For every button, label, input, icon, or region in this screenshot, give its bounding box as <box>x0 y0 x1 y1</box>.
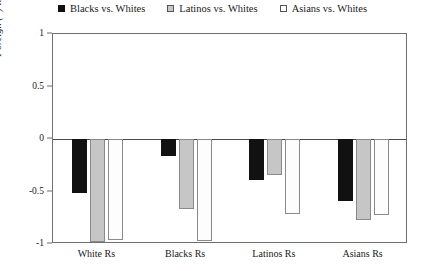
bar-group-latinos-rs <box>231 34 320 242</box>
plot-area <box>52 33 407 243</box>
legend-item-blacks-vs-whites: Blacks vs. Whites <box>58 3 145 14</box>
bar-asians-vs-whites-white-rs <box>108 139 123 240</box>
bar-asians-vs-whites-asians-rs <box>374 139 389 215</box>
legend-item-asians-vs-whites: Asians vs. Whites <box>280 3 367 14</box>
bar-asians-vs-whites-blacks-rs <box>197 139 212 241</box>
bars-layer <box>53 34 406 242</box>
y-tick-label: 0.5 <box>32 81 44 91</box>
legend-swatch-filled-square-icon <box>58 5 65 12</box>
legend-label: Blacks vs. Whites <box>70 3 145 14</box>
y-tick-label: 1 <box>39 28 44 38</box>
x-tick-label-latinos-rs: Latinos Rs <box>230 248 319 259</box>
bar-latinos-vs-whites-asians-rs <box>356 139 371 220</box>
y-tick-label: 0 <box>39 133 44 143</box>
bar-asians-vs-whites-latinos-rs <box>285 139 300 214</box>
legend-label: Latinos vs. Whites <box>179 3 257 14</box>
y-tick-label: -1 <box>36 238 44 248</box>
bar-group-asians-rs <box>319 34 408 242</box>
y-axis: 1 0.5 0 -0.5 -1 <box>0 33 52 243</box>
bar-chart: Blacks vs. Whites Latinos vs. Whites Asi… <box>0 0 425 271</box>
chart-legend: Blacks vs. Whites Latinos vs. Whites Asi… <box>0 3 425 14</box>
y-tick-label: -0.5 <box>29 186 44 196</box>
bar-blacks-vs-whites-blacks-rs <box>161 139 176 156</box>
x-axis: White Rs Blacks Rs Latinos Rs Asians Rs <box>52 248 407 259</box>
bar-blacks-vs-whites-white-rs <box>72 139 87 193</box>
legend-swatch-gray-square-icon <box>167 5 174 12</box>
legend-item-latinos-vs-whites: Latinos vs. Whites <box>167 3 257 14</box>
bar-group-blacks-rs <box>142 34 231 242</box>
legend-label: Asians vs. Whites <box>292 3 367 14</box>
x-tick-label-white-rs: White Rs <box>52 248 141 259</box>
legend-swatch-open-square-icon <box>280 5 287 12</box>
bar-blacks-vs-whites-asians-rs <box>338 139 353 201</box>
bar-group-white-rs <box>53 34 142 242</box>
bar-latinos-vs-whites-white-rs <box>90 139 105 242</box>
bar-latinos-vs-whites-blacks-rs <box>179 139 194 209</box>
x-tick-label-asians-rs: Asians Rs <box>318 248 407 259</box>
x-tick-label-blacks-rs: Blacks Rs <box>141 248 230 259</box>
bar-latinos-vs-whites-latinos-rs <box>267 139 282 175</box>
bar-blacks-vs-whites-latinos-rs <box>249 139 264 180</box>
y-axis-title: Foreign (–) to American (+) <box>0 0 3 72</box>
